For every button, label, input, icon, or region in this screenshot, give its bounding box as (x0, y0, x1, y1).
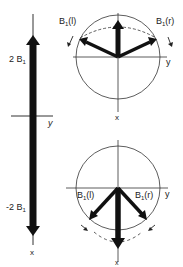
bottom-label-b1-left: B1(l) (77, 191, 94, 201)
label-minus-2b1: -2 B1 (6, 203, 26, 213)
left-x-axis-label: x (30, 249, 34, 257)
label-suffix: (r) (165, 16, 174, 26)
diagram-canvas: 2 B1 -2 B1 y x B1(l) B1(r) y x B1(l) B1(… (0, 0, 183, 267)
bottom-left-component-bar (94, 188, 118, 214)
top-y-axis-label: y (166, 58, 171, 67)
arrow-down-icon (26, 226, 40, 236)
label-suffix: (r) (144, 190, 153, 200)
top-left-component-bar (86, 42, 118, 57)
label-suffix: (l) (68, 16, 76, 26)
top-label-b1-right: B1(r) (156, 17, 174, 27)
bottom-rotating-frame (66, 140, 168, 262)
label-text: -2 B (6, 202, 23, 212)
top-right-component-bar (118, 42, 150, 57)
bottom-x-axis-label: x (115, 259, 119, 266)
label-plus-2b1: 2 B1 (9, 55, 26, 65)
top-x-axis-label: x (115, 114, 119, 122)
diagram-graphics (0, 0, 183, 267)
label-suffix: (l) (86, 190, 94, 200)
label-text: 2 B (9, 54, 23, 64)
arrow-up-icon (26, 35, 40, 45)
label-subscript: 1 (23, 59, 26, 65)
top-label-b1-left: B1(l) (59, 17, 76, 27)
bottom-label-b1-right: B1(r) (135, 191, 153, 201)
left-y-axis-label: y (48, 119, 53, 128)
top-resultant-arrow-icon (112, 20, 124, 29)
bottom-y-axis-label: y (165, 190, 170, 199)
field-bar (30, 44, 37, 227)
bottom-resultant-arrow-icon (111, 238, 125, 249)
top-rotating-frame (67, 13, 173, 112)
label-subscript: 1 (23, 207, 26, 213)
